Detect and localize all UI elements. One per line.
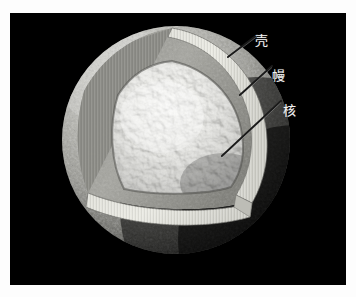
label-mantle: 幔 [272,69,285,82]
figure-root: 壳 幔 核 [0,0,356,297]
label-crust: 壳 [255,34,268,47]
image-plate: 壳 幔 核 [10,13,346,285]
label-core: 核 [283,104,296,117]
planet-cutaway-illustration [10,13,346,285]
